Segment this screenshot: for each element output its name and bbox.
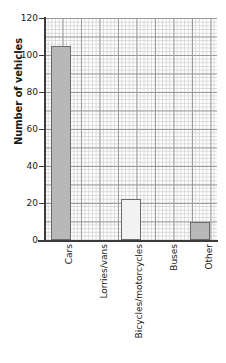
y-tick-label-120: 120: [14, 14, 38, 23]
bar-bicycles-motorcycles: [121, 199, 141, 240]
y-axis-tick-labels: 120 100 80 60 40 20 0: [10, 0, 38, 363]
bar-cars: [51, 46, 71, 240]
y-tick-label-60: 60: [14, 125, 38, 134]
x-tick-label-lorries-vans: Lorries/vans: [100, 244, 109, 299]
y-tick-label-0: 0: [14, 236, 38, 245]
plot-area: [44, 18, 217, 240]
y-tick-label-80: 80: [14, 88, 38, 97]
x-axis-tick-labels: Cars Lorries/vans Bicycles/motorcycles B…: [44, 244, 217, 363]
y-axis-line: [44, 17, 46, 241]
bar-chart: Number of vehicles 120 100 80 60 40 20 0…: [0, 0, 226, 363]
x-tick-label-buses: Buses: [170, 244, 179, 271]
bar-other: [190, 222, 210, 241]
x-tick-label-bicycles-motorcycles: Bicycles/motorcycles: [135, 244, 144, 338]
x-tick-label-other: Other: [205, 244, 214, 270]
x-tick-label-cars: Cars: [65, 244, 74, 264]
y-tick-label-40: 40: [14, 162, 38, 171]
x-axis-line: [38, 240, 218, 242]
y-tick-label-20: 20: [14, 199, 38, 208]
y-tick-label-100: 100: [14, 51, 38, 60]
